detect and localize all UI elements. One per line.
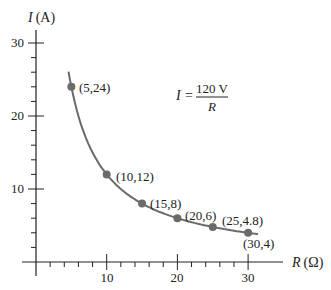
y-tick-label-20: 20	[11, 108, 24, 123]
data-point	[209, 223, 217, 231]
svg-text:120 V: 120 V	[196, 81, 229, 96]
x-tick-label-20: 20	[171, 270, 184, 285]
svg-text:R: R	[207, 99, 216, 114]
y-tick-label-10: 10	[11, 181, 24, 196]
data-point	[103, 170, 111, 178]
chart: I(A) R(Ω) 30 20 10 10 20 30 (5,24) (10,1…	[0, 0, 331, 290]
point-label-4: (20,6)	[185, 208, 216, 223]
y-tick-label-30: 30	[11, 35, 24, 50]
svg-text:I: I	[175, 88, 182, 103]
point-label-2: (10,12)	[116, 169, 154, 184]
y-axis-title: I(A)	[27, 10, 55, 26]
x-axis-title: R(Ω)	[291, 255, 324, 271]
x-tick-label-30: 30	[242, 270, 255, 285]
point-label-3: (15,8)	[150, 196, 181, 211]
svg-text:=: =	[185, 88, 193, 103]
data-point	[173, 214, 181, 222]
point-label-6: (30,4)	[243, 236, 274, 251]
x-tick-label-10: 10	[101, 270, 114, 285]
data-point	[67, 83, 75, 91]
point-label-1: (5,24)	[79, 80, 110, 95]
data-point	[138, 200, 146, 208]
point-label-5: (25,4.8)	[222, 213, 263, 228]
formula: I = 120 V R	[175, 81, 229, 114]
